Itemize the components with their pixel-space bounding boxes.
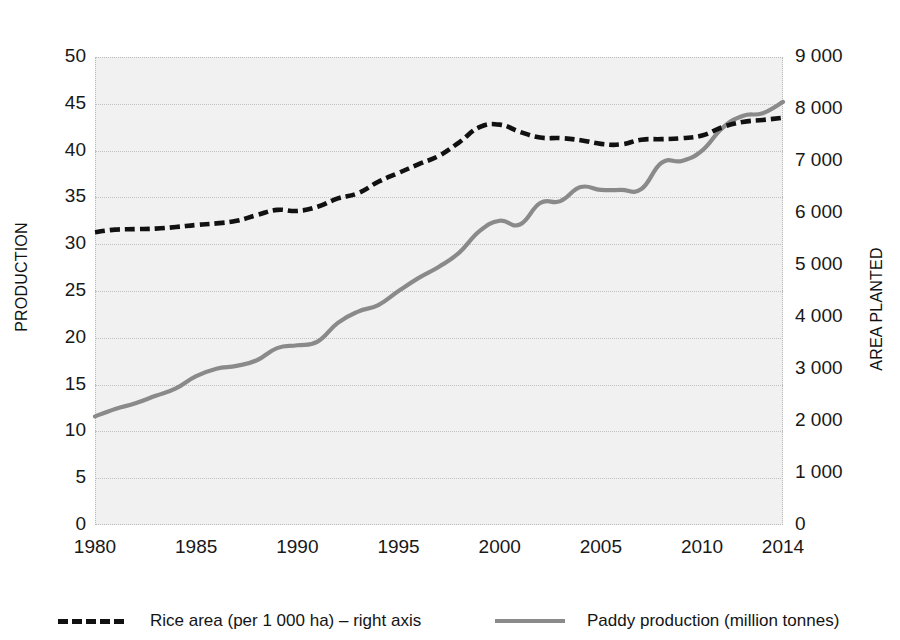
legend-swatch-solid-icon (495, 619, 565, 623)
y-axis-left-tick-label: 30 (65, 233, 86, 252)
y-axis-left-tick-label: 45 (65, 93, 86, 112)
y-axis-right-title: AREA PLANTED (868, 219, 886, 399)
x-axis-tick-label: 1985 (151, 537, 241, 556)
y-axis-left-title: PRODUCTION (13, 197, 31, 357)
series-line-rice-area (95, 118, 783, 232)
y-axis-right-tick-label: 1 000 (795, 462, 843, 481)
legend-label-paddy-production: Paddy production (million tonnes) (587, 611, 839, 631)
y-axis-right-tick-label: 6 000 (795, 202, 843, 221)
legend-swatch-dashed-icon (58, 619, 128, 624)
x-axis-tick-label: 1990 (252, 537, 342, 556)
legend-item-paddy-production: Paddy production (million tonnes) (495, 602, 839, 640)
y-axis-left-tick-label: 20 (65, 327, 86, 346)
series-layer (95, 57, 783, 525)
y-axis-left-tick-label: 25 (65, 280, 86, 299)
y-axis-right-tick-label: 3 000 (795, 358, 843, 377)
y-axis-right-tick-label: 9 000 (795, 46, 843, 65)
x-axis-tick-label: 2000 (455, 537, 545, 556)
y-axis-left-tick-label: 35 (65, 186, 86, 205)
legend-label-rice-area: Rice area (per 1 000 ha) – right axis (150, 611, 421, 631)
y-axis-right-tick-label: 7 000 (795, 150, 843, 169)
y-axis-left-tick-label: 40 (65, 140, 86, 159)
y-axis-left-tick-label: 15 (65, 374, 86, 393)
x-axis-tick-label: 1995 (354, 537, 444, 556)
y-axis-left-tick-label: 10 (65, 420, 86, 439)
y-axis-right-tick-label: 8 000 (795, 98, 843, 117)
x-axis-tick-label: 2014 (738, 537, 828, 556)
y-axis-right-tick-label: 2 000 (795, 410, 843, 429)
y-axis-right-tick-label: 4 000 (795, 306, 843, 325)
y-axis-left-tick-label: 0 (75, 514, 86, 533)
y-axis-left-tick-label: 50 (65, 46, 86, 65)
chart-figure: in the sector. Rice production and yield… (0, 0, 900, 640)
x-axis-tick-label: 2010 (657, 537, 747, 556)
y-axis-left-tick-label: 5 (75, 467, 86, 486)
y-axis-right-tick-label: 0 (795, 514, 806, 533)
series-line-paddy-production (95, 102, 783, 416)
legend-item-rice-area: Rice area (per 1 000 ha) – right axis (58, 602, 421, 640)
x-axis-tick-label: 2005 (556, 537, 646, 556)
y-axis-right-tick-label: 5 000 (795, 254, 843, 273)
x-axis-tick-label: 1980 (50, 537, 140, 556)
chart-legend: Rice area (per 1 000 ha) – right axis Pa… (0, 602, 900, 640)
